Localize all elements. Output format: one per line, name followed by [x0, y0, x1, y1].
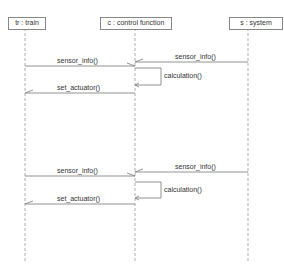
message-label: sensor_info() — [175, 53, 216, 61]
message-label: calculation() — [164, 72, 202, 80]
message-label: set_actuator() — [57, 195, 100, 203]
diagram-lines — [0, 0, 284, 275]
lifeline-system[interactable]: s : system — [229, 17, 283, 30]
message-label: sensor_info() — [57, 167, 98, 175]
lifeline-train[interactable]: tr : train — [8, 17, 46, 30]
message-label: sensor_info() — [175, 163, 216, 171]
lifeline-control-function[interactable]: c : control function — [100, 17, 172, 30]
sequence-diagram: tr : train c : control function s : syst… — [0, 0, 284, 275]
message-label: calculation() — [164, 186, 202, 194]
message-label: set_actuator() — [57, 84, 100, 92]
message-label: sensor_info() — [57, 57, 98, 65]
